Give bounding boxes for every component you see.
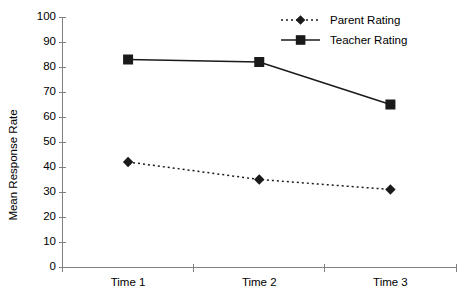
- y-tick-label: 10: [43, 235, 56, 247]
- diamond-icon: [296, 15, 306, 25]
- data-point-diamond: [254, 174, 264, 184]
- chart-canvas: Mean Response Rate 010203040506070809010…: [0, 0, 470, 302]
- y-tick-label: 20: [43, 210, 56, 222]
- y-tick-label: 30: [43, 185, 56, 197]
- series-markers-teacher-rating: [123, 55, 395, 110]
- y-tick-label: 80: [43, 60, 56, 72]
- y-tick-label: 50: [43, 135, 56, 147]
- y-tick-label: 90: [43, 35, 56, 47]
- y-tick-label: 40: [43, 160, 56, 172]
- x-axis-category-labels: Time 1Time 2Time 3: [111, 276, 408, 288]
- y-tick-label: 0: [50, 260, 56, 272]
- y-axis-title: Mean Response Rate: [7, 109, 19, 220]
- legend-label-parent-rating: Parent Rating: [330, 14, 400, 26]
- data-point-square: [254, 57, 264, 67]
- x-category-label: Time 1: [111, 276, 146, 288]
- series-markers-parent-rating: [123, 157, 396, 195]
- chart-legend: Parent Rating Teacher Rating: [281, 14, 407, 46]
- y-axis-tick-labels: 0102030405060708090100: [37, 10, 56, 272]
- legend-item-teacher-rating: Teacher Rating: [281, 34, 407, 46]
- legend-item-parent-rating: Parent Rating: [281, 14, 400, 26]
- y-tick-label: 100: [37, 10, 56, 22]
- y-tick-label: 60: [43, 110, 56, 122]
- y-tick-label: 70: [43, 85, 56, 97]
- y-axis-title-text: Mean Response Rate: [7, 109, 19, 220]
- square-icon: [296, 35, 306, 45]
- data-point-diamond: [385, 184, 395, 194]
- x-category-label: Time 3: [373, 276, 408, 288]
- line-chart: Mean Response Rate 010203040506070809010…: [0, 0, 470, 302]
- data-point-diamond: [123, 157, 133, 167]
- data-point-square: [385, 100, 395, 110]
- x-category-label: Time 2: [242, 276, 277, 288]
- data-point-square: [123, 55, 133, 65]
- legend-label-teacher-rating: Teacher Rating: [330, 34, 407, 46]
